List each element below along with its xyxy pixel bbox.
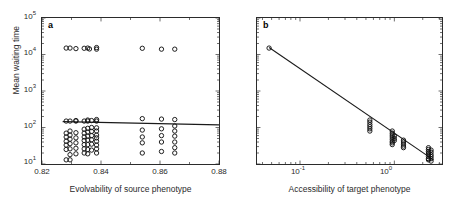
panel-a-ytick-1e1: 101	[6, 158, 36, 166]
panel-a-plot-area	[42, 18, 219, 164]
panel-b-xtick-1e-1: 10-1	[285, 168, 311, 176]
panel-a: a 105 104 103 102 101 0.82 0.84 0.86 0.8…	[0, 0, 233, 203]
panel-a-y-axis-title: Mean waiting time	[12, 0, 21, 120]
panel-b: b 10-1 100 Accessibility of target pheno…	[233, 0, 467, 203]
panel-a-xtick-088: 0.88	[207, 168, 231, 176]
panel-a-xtick-086: 0.86	[148, 168, 172, 176]
panel-a-ytick-1e2: 102	[6, 122, 36, 130]
panel-a-letter: a	[48, 20, 53, 30]
panel-a-ytick-1e5: 105	[6, 13, 36, 21]
panel-b-xtick-1e0: 100	[373, 168, 399, 176]
panel-a-xtick-082: 0.82	[30, 168, 54, 176]
panel-b-x-axis-title: Accessibility of target phenotype	[256, 185, 443, 194]
panel-a-x-axis-title: Evolvability of source phenotype	[41, 185, 220, 194]
panel-b-axes	[256, 17, 443, 165]
panel-b-letter: b	[263, 20, 269, 30]
panel-b-plot-area	[257, 18, 442, 164]
panel-a-axes	[41, 17, 220, 165]
panel-a-xtick-084: 0.84	[89, 168, 113, 176]
figure-container: a 105 104 103 102 101 0.82 0.84 0.86 0.8…	[0, 0, 467, 203]
